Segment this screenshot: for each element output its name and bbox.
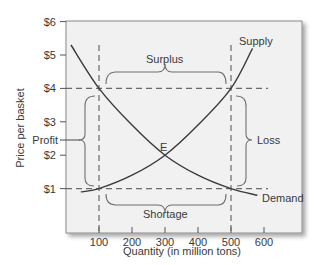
y-axis-ticks: $1$2$3$4$5$6 bbox=[44, 16, 66, 195]
y-tick-label: $1 bbox=[44, 183, 56, 195]
x-axis-title: Quantity (in million tons) bbox=[123, 245, 241, 257]
y-tick-label: $2 bbox=[44, 149, 56, 161]
profit-label: Profit bbox=[32, 134, 58, 146]
y-tick-label: $3 bbox=[44, 116, 56, 128]
equilibrium-label: E bbox=[160, 141, 167, 153]
y-axis-title: Price per basket bbox=[14, 88, 26, 167]
y-tick-label: $6 bbox=[44, 16, 56, 28]
y-tick-label: $5 bbox=[44, 49, 56, 61]
supply-label: Supply bbox=[239, 35, 273, 47]
loss-label: Loss bbox=[257, 134, 281, 146]
x-tick-label: 600 bbox=[255, 236, 273, 248]
surplus-label: Surplus bbox=[146, 53, 184, 65]
supply-demand-chart: $1$2$3$4$5$6 100200300400500600 Supply D… bbox=[0, 0, 325, 265]
x-tick-label: 100 bbox=[90, 236, 108, 248]
y-tick-label: $4 bbox=[44, 82, 56, 94]
demand-label: Demand bbox=[262, 192, 304, 204]
shortage-label: Shortage bbox=[143, 208, 188, 220]
